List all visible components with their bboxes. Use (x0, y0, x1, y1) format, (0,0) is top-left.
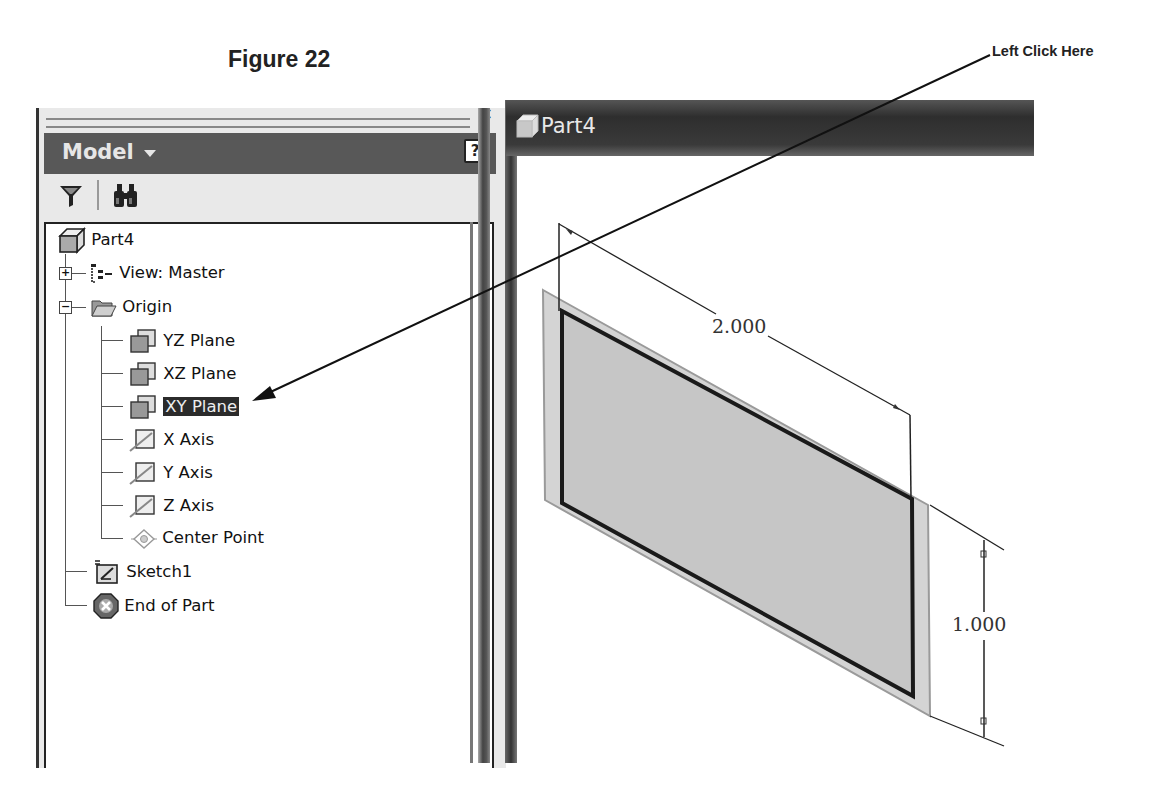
extension-line (930, 505, 1004, 550)
extension-line (910, 415, 911, 499)
dimension-height-label[interactable]: 1.000 (952, 613, 1006, 635)
extension-line (930, 716, 1004, 746)
dimension-width-label[interactable]: 2.000 (712, 315, 766, 337)
dimension-arrow-icon (893, 404, 900, 410)
dimension-line (768, 336, 910, 415)
callout-arrowhead-icon (252, 386, 276, 401)
sketch-canvas (0, 0, 1150, 802)
dimension-line (559, 224, 716, 314)
sketch-rectangle[interactable] (562, 311, 913, 696)
